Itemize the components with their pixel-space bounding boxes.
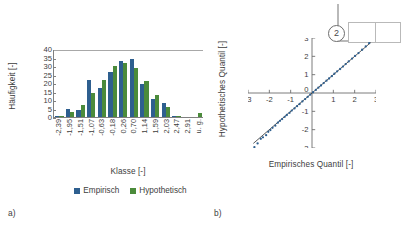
bar — [113, 66, 117, 117]
bar-chart-x-tick: 1,59 — [149, 119, 160, 163]
qq-plot-data-point — [265, 134, 267, 136]
qq-plot-y-tick: -1 — [302, 107, 309, 116]
qq-plot-y-tick: -2 — [302, 125, 309, 134]
bar — [81, 105, 85, 117]
qq-plot-data-point — [286, 114, 288, 116]
qq-plot-x-tick: -1 — [287, 95, 294, 104]
bar-group — [86, 50, 97, 117]
bar — [134, 68, 138, 117]
qq-plot-svg: -3-2-1123-3-2-10123 — [248, 38, 376, 148]
qq-plot-data-point — [277, 122, 279, 124]
bar-group — [118, 50, 129, 117]
qq-plot-data-point — [365, 45, 367, 47]
qq-plot-data-point — [309, 94, 311, 96]
bar-chart-x-tick: -1,07 — [85, 119, 96, 163]
bar-group — [139, 50, 150, 117]
qq-plot-data-point — [345, 63, 347, 65]
bar — [198, 113, 202, 117]
qq-plot-data-point — [298, 103, 300, 105]
qq-plot-y-tick: 2 — [304, 52, 308, 61]
qq-plot-data-point — [253, 146, 255, 148]
legend-label: Empirisch — [83, 186, 119, 195]
bar-group — [97, 50, 108, 117]
qq-plot-data-point — [317, 87, 319, 89]
bar-group — [160, 50, 171, 117]
bar-chart-y-axis-title: Häufigkeit [-] — [8, 54, 20, 118]
qq-plot-data-point — [312, 91, 314, 93]
bar-chart-x-tick: -0,63 — [96, 119, 107, 163]
qq-plot-data-point — [260, 138, 262, 140]
bar-chart-y-tick-labels: 4035302520151050 — [30, 44, 52, 122]
qq-plot-data-point — [328, 77, 330, 79]
qq-plot-data-point — [323, 82, 325, 84]
bar-chart-x-tick: -1,51 — [74, 119, 85, 163]
panel-a-histogram: Häufigkeit [-] 4035302520151050 -2,39-1,… — [0, 0, 212, 235]
bar-chart-y-tick: 30 — [30, 63, 52, 71]
bar-chart-x-tick: 2,47 — [171, 119, 182, 163]
qq-plot-data-point — [320, 84, 322, 86]
qq-plot-data-point — [368, 42, 370, 44]
qq-plot-y-tick: 0 — [304, 85, 308, 94]
bar-chart-y-tick: 20 — [30, 80, 52, 88]
bar-chart-x-tick: u. g. — [192, 119, 203, 163]
legend-item: Hypothetisch — [130, 186, 186, 195]
bar-group — [171, 50, 182, 117]
qq-plot-data-point — [331, 75, 333, 77]
qq-plot-y-tick: -3 — [302, 144, 309, 148]
qq-plot-data-point — [348, 60, 350, 62]
bar-chart-x-tick: 2,03 — [160, 119, 171, 163]
bar-group — [65, 50, 76, 117]
qq-plot-data-point — [274, 124, 276, 126]
qq-plot-data-point — [339, 68, 341, 70]
legend-label: Hypothetisch — [139, 186, 186, 195]
bar-chart-x-tick: 1,14 — [139, 119, 150, 163]
qq-plot-data-point — [296, 105, 298, 107]
qq-plot-data-point — [269, 129, 271, 131]
qq-plot-data-point — [281, 118, 283, 120]
bar — [70, 112, 74, 117]
bar-chart-x-tick-labels: -2,39-1,95-1,51-1,07-0,63-0,180,260,701,… — [53, 119, 203, 163]
bar-chart-x-tick: 0,26 — [117, 119, 128, 163]
qq-plot-data-point — [354, 55, 356, 57]
qq-plot-data-point — [333, 73, 335, 75]
qq-plot-data-point — [262, 136, 264, 138]
bar — [155, 95, 159, 117]
bar-group — [107, 50, 118, 117]
qq-plot-x-tick: 2 — [353, 95, 357, 104]
bar-chart-x-tick: 2,91 — [182, 119, 193, 163]
bar-group — [182, 50, 193, 117]
qq-plot-data-point — [307, 96, 309, 98]
qq-plot-data-point — [301, 100, 303, 102]
qq-plot-data-point — [351, 57, 353, 59]
panel-b-label: b) — [214, 208, 221, 218]
qq-plot-x-tick: 3 — [374, 95, 376, 104]
bar-chart-plot-area — [53, 50, 203, 118]
bar — [59, 116, 63, 117]
qq-plot-data-point — [304, 98, 306, 100]
bar — [123, 63, 127, 117]
qq-plot-data-point — [361, 49, 363, 51]
qq-plot-y-tick: 3 — [304, 38, 308, 43]
bar — [91, 93, 95, 117]
qq-plot-data-point — [279, 120, 281, 122]
bar-chart-y-tick: 10 — [30, 97, 52, 105]
qq-plot-data-point — [267, 131, 269, 133]
bar-group — [150, 50, 161, 117]
qq-plot-data-point — [336, 70, 338, 72]
qq-plot-data-point — [288, 112, 290, 114]
bar — [102, 80, 106, 117]
bar-chart-x-axis-title: Klasse [-] — [53, 167, 203, 176]
qq-plot-data-point — [271, 127, 273, 129]
qq-plot-data-point — [291, 109, 293, 111]
qq-plot-plot-area: -3-2-1123-3-2-10123 — [248, 38, 376, 148]
bar-chart-x-tick: -0,18 — [107, 119, 118, 163]
bar-chart-bars — [54, 50, 203, 117]
bar-chart-y-tick: 0 — [30, 114, 52, 122]
bar-group — [75, 50, 86, 117]
legend-swatch — [130, 188, 136, 194]
qq-plot-data-point — [342, 65, 344, 67]
legend-swatch — [74, 188, 80, 194]
qq-plot-x-tick: -2 — [266, 95, 273, 104]
qq-plot-data-point — [293, 107, 295, 109]
